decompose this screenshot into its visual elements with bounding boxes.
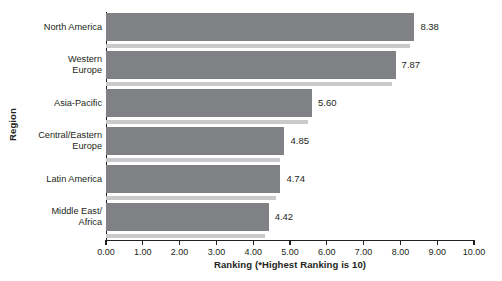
x-axis-tick-label: 2.00 [171, 247, 189, 257]
bar-group: 7.87 [106, 51, 474, 89]
bar[interactable] [106, 127, 284, 155]
x-axis-tick-label: 5.00 [281, 247, 299, 257]
bar-value-label: 7.87 [402, 59, 421, 70]
bar-value-label: 8.38 [420, 21, 439, 32]
bar-shadow [106, 234, 265, 238]
bar-shadow [106, 158, 280, 162]
y-axis-title-text: Region [7, 108, 18, 141]
x-axis-tick-label: 4.00 [244, 247, 262, 257]
bar-group: 8.38 [106, 13, 474, 51]
category-label: Latin America [22, 174, 102, 185]
bar-shadow [106, 120, 308, 124]
x-axis-tick-label: 8.00 [392, 247, 410, 257]
bar-chart: Region North AmericaWestern EuropeAsia-P… [0, 0, 502, 281]
category-label: Middle East/ Africa [22, 206, 102, 228]
bar[interactable] [106, 165, 280, 193]
x-axis-tick-label: 1.00 [134, 247, 152, 257]
bar-value-label: 4.85 [290, 135, 309, 146]
category-label: Central/Eastern Europe [22, 130, 102, 152]
bar-shadow [106, 196, 276, 200]
bar[interactable] [106, 203, 269, 231]
bar-value-label: 4.42 [275, 211, 294, 222]
bar-value-label: 5.60 [318, 97, 337, 108]
category-label: North America [22, 22, 102, 33]
category-label: Asia-Pacific [22, 98, 102, 109]
x-axis-tick-label: 7.00 [355, 247, 373, 257]
bar-group: 5.60 [106, 89, 474, 127]
bar-group: 4.85 [106, 127, 474, 165]
bar[interactable] [106, 13, 414, 41]
x-axis-tick-label: 3.00 [208, 247, 226, 257]
bar[interactable] [106, 51, 396, 79]
bar-group: 4.74 [106, 165, 474, 203]
category-label-column: North AmericaWestern EuropeAsia-PacificC… [22, 12, 102, 240]
bar[interactable] [106, 89, 312, 117]
x-axis-tick-label: 9.00 [428, 247, 446, 257]
x-axis-tick-label: 0.00 [97, 247, 115, 257]
bar-value-label: 4.74 [286, 173, 305, 184]
plot-area: 0.001.002.003.004.005.006.007.008.009.00… [106, 12, 474, 240]
x-axis-tick-label: 10.00 [463, 247, 486, 257]
y-axis-title: Region [2, 0, 22, 248]
x-axis-tick-label: 6.00 [318, 247, 336, 257]
category-label: Western Europe [22, 54, 102, 76]
x-axis-title: Ranking (*Highest Ranking is 10) [106, 259, 474, 270]
bar-group: 4.42 [106, 203, 474, 241]
bar-shadow [106, 44, 410, 48]
bar-shadow [106, 82, 392, 86]
